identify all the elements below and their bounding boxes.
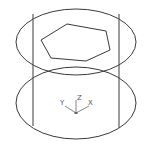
ucs-x-axis xyxy=(76,106,89,113)
hexagon-cutout[interactable] xyxy=(41,24,110,61)
ucs-y-label: Y xyxy=(59,99,65,107)
cad-viewport[interactable]: Y Z X xyxy=(0,0,150,159)
ucs-y-axis xyxy=(65,106,76,113)
ucs-icon xyxy=(65,100,89,114)
cylinder-top-ellipse[interactable] xyxy=(16,9,136,75)
ucs-origin-marker xyxy=(75,112,78,114)
ucs-x-label: X xyxy=(88,99,93,107)
ucs-z-label: Z xyxy=(77,94,82,102)
